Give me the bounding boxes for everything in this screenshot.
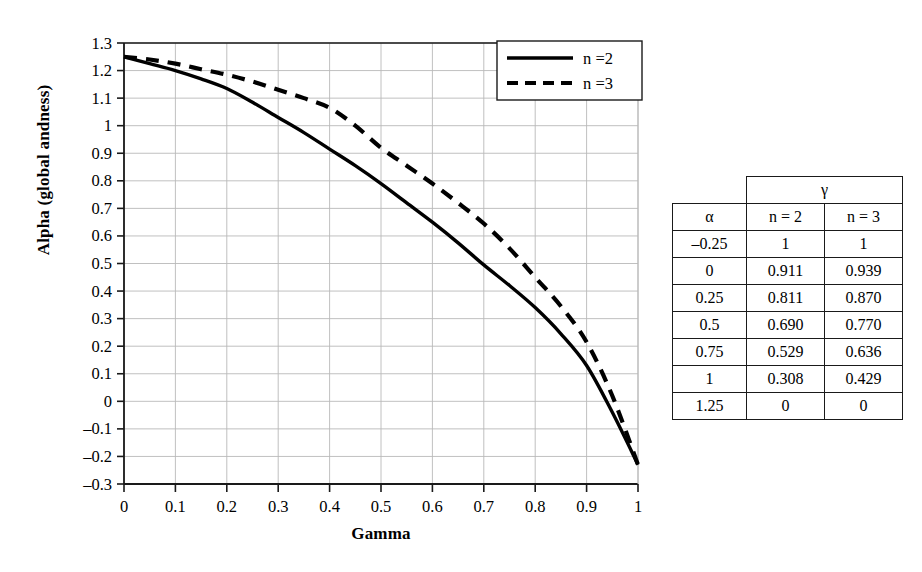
y-tick-label: 0.5	[91, 254, 112, 273]
table-cell-n2: 0	[747, 393, 825, 420]
y-tick-label: 0.7	[91, 199, 112, 218]
table-cell-alpha: 0	[673, 258, 747, 285]
y-tick-label: –0.3	[82, 475, 112, 494]
table-row: 10.3080.429	[673, 366, 903, 393]
table-cell-n3: 0.870	[825, 285, 903, 312]
table-row: 0.250.8110.870	[673, 285, 903, 312]
x-tick-label: 0.9	[576, 497, 597, 516]
table-span-header-row: γ	[673, 177, 903, 204]
x-tick-label: 0	[120, 497, 128, 516]
tick-marks	[117, 43, 638, 492]
y-tick-label: 0.3	[91, 309, 112, 328]
x-tick-label: 0.4	[319, 497, 340, 516]
table-cell-n2: 0.529	[747, 339, 825, 366]
table-cell-alpha: 1.25	[673, 393, 747, 420]
y-tick-label: –0.2	[82, 447, 112, 466]
y-axis-title-wrap: Alpha (global andness)	[34, 40, 54, 300]
table-cell-n2: 0.690	[747, 312, 825, 339]
y-tick-label: 0.4	[91, 282, 112, 301]
table-cell-n2: 1	[747, 231, 825, 258]
table-cell-n3: 0.770	[825, 312, 903, 339]
table-row: 00.9110.939	[673, 258, 903, 285]
table-cell-n3: 1	[825, 231, 903, 258]
table-cell-n3: 0.429	[825, 366, 903, 393]
table-corner-blank	[673, 177, 747, 204]
table-column-header: α	[673, 204, 747, 231]
table-cell-alpha: 0.25	[673, 285, 747, 312]
table-cell-alpha: 1	[673, 366, 747, 393]
x-axis-title-wrap: Gamma	[124, 524, 638, 544]
y-tick-label: 0	[104, 392, 112, 411]
table-cell-alpha: –0.25	[673, 231, 747, 258]
table-cell-n2: 0.811	[747, 285, 825, 312]
table-row: 1.2500	[673, 393, 903, 420]
x-axis-title: Gamma	[351, 524, 411, 543]
y-tick-label: 0.2	[91, 337, 112, 356]
table-cell-alpha: 0.5	[673, 312, 747, 339]
x-tick-label: 0.3	[268, 497, 289, 516]
table-row: 0.750.5290.636	[673, 339, 903, 366]
table-cell-n3: 0.636	[825, 339, 903, 366]
x-tick-label: 1	[634, 497, 642, 516]
tick-labels: 1.31.21.110.90.80.70.60.50.40.30.20.10–0…	[82, 34, 642, 517]
y-tick-label: –0.1	[82, 419, 112, 438]
x-tick-label: 0.8	[525, 497, 546, 516]
table-cell-n2: 0.308	[747, 366, 825, 393]
legend-label-2: n =3	[583, 74, 613, 93]
x-tick-label: 0.6	[422, 497, 443, 516]
y-tick-label: 0.8	[91, 171, 112, 190]
figure-root: 1.31.21.110.90.80.70.60.50.40.30.20.10–0…	[0, 0, 922, 572]
y-tick-label: 0.6	[91, 226, 112, 245]
table-cell-n3: 0	[825, 393, 903, 420]
legend-box	[497, 41, 642, 100]
y-tick-label: 0.9	[91, 144, 112, 163]
x-tick-label: 0.7	[473, 497, 494, 516]
x-tick-label: 0.2	[216, 497, 237, 516]
table-column-header: n = 3	[825, 204, 903, 231]
table-row: 0.50.6900.770	[673, 312, 903, 339]
table-column-header: n = 2	[747, 204, 825, 231]
y-tick-label: 0.1	[91, 364, 112, 383]
y-tick-label: 1	[104, 116, 112, 135]
grid-lines	[124, 43, 638, 484]
chart: 1.31.21.110.90.80.70.60.50.40.30.20.10–0…	[0, 0, 660, 572]
y-tick-label: 1.3	[91, 34, 112, 53]
table-row: –0.2511	[673, 231, 903, 258]
x-tick-label: 0.5	[371, 497, 392, 516]
y-axis-title: Alpha (global andness)	[34, 85, 53, 256]
legend: n =2n =3	[497, 41, 642, 100]
table-header-row: αn = 2n = 3	[673, 204, 903, 231]
legend-label-1: n =2	[583, 49, 613, 68]
table-cell-alpha: 0.75	[673, 339, 747, 366]
table-cell-n2: 0.911	[747, 258, 825, 285]
table-cell-n3: 0.939	[825, 258, 903, 285]
values-table: γαn = 2n = 3–0.251100.9110.9390.250.8110…	[672, 176, 903, 420]
x-tick-label: 0.1	[165, 497, 186, 516]
table-gamma-header: γ	[747, 177, 903, 204]
chart-canvas: 1.31.21.110.90.80.70.60.50.40.30.20.10–0…	[0, 0, 660, 572]
y-tick-label: 1.2	[91, 61, 112, 80]
data-table-wrap: γαn = 2n = 3–0.251100.9110.9390.250.8110…	[672, 176, 904, 420]
y-tick-label: 1.1	[91, 89, 112, 108]
